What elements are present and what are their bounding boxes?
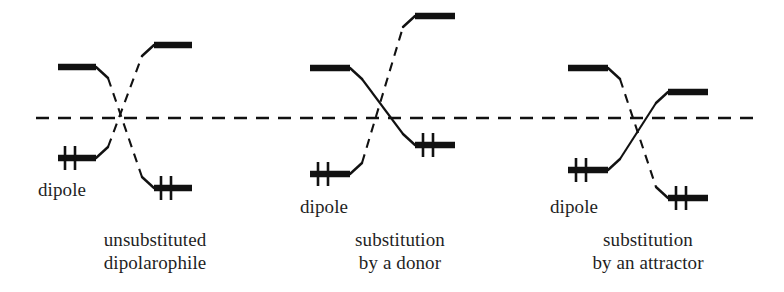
- panel-substitution-by-an-attractor: [568, 68, 708, 210]
- panel-caption-line-1: substitution: [355, 228, 445, 251]
- panels-group: [58, 16, 708, 210]
- panel-caption-line-2: by an attractor: [592, 251, 703, 274]
- stub-dipolarophile-homo: [656, 187, 668, 198]
- dipole-label-substitution-by-an-attractor: dipole: [550, 195, 598, 218]
- interaction-dipole-homo-to-dipolarophile-lumo: [620, 103, 656, 159]
- stub-dipolarophile-lumo: [656, 92, 668, 103]
- interaction-dipole-lumo-to-dipolarophile-homo: [362, 79, 403, 134]
- stub-dipole-homo: [350, 163, 362, 174]
- interaction-dipole-homo-to-dipolarophile-lumo: [362, 27, 403, 163]
- stub-dipole-homo: [608, 159, 620, 170]
- interaction-dipole-lumo-to-dipolarophile-homo: [108, 78, 142, 177]
- panel-substitution-by-a-donor: [310, 16, 455, 186]
- stub-dipole-homo: [96, 147, 108, 158]
- panel-caption-line-2: dipolarophile: [104, 251, 207, 274]
- dipole-label-substitution-by-a-donor: dipole: [300, 195, 348, 218]
- panel-caption-substitution-by-a-donor: substitutionby a donor: [355, 228, 445, 274]
- panel-caption-line-1: unsubstituted: [104, 228, 207, 251]
- interaction-dipole-homo-to-dipolarophile-lumo: [108, 56, 142, 147]
- stub-dipole-lumo: [350, 68, 362, 79]
- interaction-dipole-lumo-to-dipolarophile-homo: [620, 79, 656, 187]
- panel-caption-substitution-by-an-attractor: substitutionby an attractor: [592, 228, 703, 274]
- dipole-label-unsubstituted-dipolarophile: dipole: [38, 178, 86, 201]
- stub-dipolarophile-lumo: [403, 16, 415, 27]
- stub-dipolarophile-homo: [403, 134, 415, 145]
- panel-unsubstituted-dipolarophile: [58, 45, 192, 200]
- panel-caption-line-1: substitution: [592, 228, 703, 251]
- stub-dipole-lumo: [608, 68, 620, 79]
- panel-caption-unsubstituted-dipolarophile: unsubstituteddipolarophile: [104, 228, 207, 274]
- stub-dipolarophile-homo: [142, 177, 154, 188]
- fmo-diagram: unsubstituteddipolarophiledipolesubstitu…: [0, 0, 784, 292]
- stub-dipolarophile-lumo: [142, 45, 154, 56]
- panel-caption-line-2: by a donor: [355, 251, 445, 274]
- stub-dipole-lumo: [96, 67, 108, 78]
